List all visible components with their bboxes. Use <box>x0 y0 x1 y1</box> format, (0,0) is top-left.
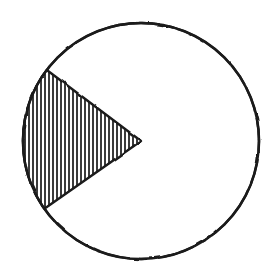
figure-root: Circle with shaded sector <box>0 0 277 272</box>
circle-sector-diagram: Circle with shaded sector <box>0 0 277 272</box>
